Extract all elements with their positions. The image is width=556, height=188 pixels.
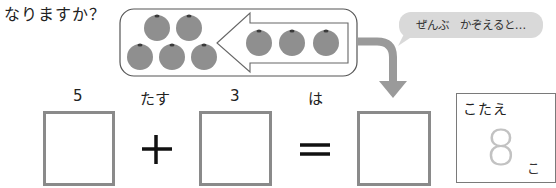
equals-icon: [298, 140, 332, 160]
label-equals-word: は: [308, 87, 323, 108]
right-orange-group: [246, 30, 339, 57]
answer-title: こたえ: [463, 98, 508, 118]
result-box[interactable]: [357, 111, 431, 186]
curved-down-arrow-icon: [357, 42, 407, 99]
label-second-number: 3: [230, 87, 240, 105]
second-number-box[interactable]: [199, 111, 272, 186]
speech-bubble: ぜんぶ かぞえると…: [399, 12, 543, 38]
label-first-number: 5: [73, 87, 83, 105]
plus-icon: [140, 133, 174, 167]
label-plus-word: たす: [140, 87, 170, 108]
answer-unit: こ: [527, 158, 540, 177]
answer-value: 8: [485, 120, 517, 176]
first-number-box[interactable]: [43, 111, 115, 186]
answer-box: こたえ 8 こ: [456, 93, 556, 183]
